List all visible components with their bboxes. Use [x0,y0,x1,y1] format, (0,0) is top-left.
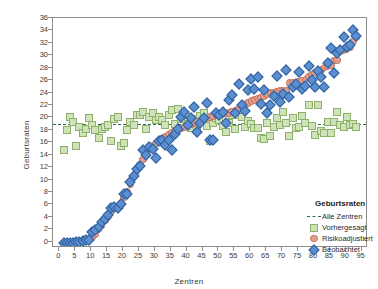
y-tick-label: 32 [26,37,48,46]
x-tick-mark [170,247,171,251]
data-point [285,132,293,140]
legend-item-risikoadjustiert[interactable]: Risikoadjustiert [306,233,378,244]
x-tick-label: 55 [229,251,237,260]
x-tick-label: 45 [197,251,205,260]
y-tick-label: 22 [26,100,48,109]
legend: Geburtsraten Alle ZentrenVorhergesagtRis… [306,199,378,255]
legend-title: Geburtsraten [315,199,378,208]
x-tick-label: 60 [245,251,253,260]
data-point [308,122,316,130]
legend-rows: Alle ZentrenVorhergesagtRisikoadjustiert… [306,211,378,255]
x-tick-label: 30 [150,251,158,260]
data-point [279,108,287,116]
y-tick-label: 10 [26,174,48,183]
y-tick-label: 4 [26,211,48,220]
plot-frame: Geburtsraten Alle ZentrenVorhergesagtRis… [52,17,367,247]
y-tick-label: 18 [26,124,48,133]
data-point [107,137,115,145]
y-tick-label: 34 [26,25,48,34]
x-tick-mark [74,247,75,251]
data-point [233,78,244,89]
y-tick-label: 28 [26,62,48,71]
data-point [281,64,292,75]
data-point [289,114,297,122]
x-tick-mark [106,247,107,251]
x-tick-mark [249,247,250,251]
x-tick-mark [186,247,187,251]
data-point [305,101,313,109]
data-point [95,134,103,142]
data-point [266,132,274,140]
x-tick-mark [233,247,234,251]
x-tick-mark [202,247,203,251]
y-tick-label: 16 [26,137,48,146]
legend-marker-icon [306,216,322,217]
y-tick-label: 12 [26,162,48,171]
data-point [161,121,169,129]
x-tick-label: 70 [277,251,285,260]
data-point [328,67,339,78]
y-tick-label: 14 [26,149,48,158]
x-tick-label: 10 [86,251,94,260]
x-tick-label: 15 [102,251,110,260]
legend-item-alle-zentren[interactable]: Alle Zentren [306,211,378,222]
legend-marker-icon [306,246,322,254]
data-point [333,108,341,116]
y-tick-label: 20 [26,112,48,121]
data-point [60,146,68,154]
y-tick-label: 26 [26,75,48,84]
y-tick-label: 6 [26,199,48,208]
y-axis-tick-labels: 024681012141618202224262830323436 [26,17,48,247]
data-point [142,125,150,133]
data-point [63,126,71,134]
data-point [352,123,360,131]
legend-item-label: Vorhergesagt [322,223,367,232]
data-point [319,82,330,93]
data-point [327,129,335,137]
legend-marker-icon [306,224,322,232]
x-tick-mark [90,247,91,251]
x-tick-mark [138,247,139,251]
data-point [72,142,80,150]
x-tick-mark [58,247,59,251]
data-point [254,124,262,132]
y-tick-label: 2 [26,224,48,233]
y-tick-label: 0 [26,236,48,245]
y-tick-label: 30 [26,50,48,59]
data-point [188,101,199,112]
data-point [114,113,122,121]
legend-item-label: Alle Zentren [322,212,362,221]
x-tick-label: 75 [293,251,301,260]
x-tick-label: 25 [134,251,142,260]
x-tick-label: 40 [181,251,189,260]
x-tick-label: 0 [56,251,60,260]
data-point [130,121,138,129]
data-point [201,97,212,108]
legend-item-vorhergesagt[interactable]: Vorhergesagt [306,222,378,233]
y-tick-label: 24 [26,87,48,96]
y-tick-label: 36 [26,13,48,22]
legend-item-label: Risikoadjustiert [322,234,373,243]
data-point [316,72,327,83]
legend-item-beobachtet[interactable]: Beobachtet [306,244,378,255]
x-tick-mark [265,247,266,251]
x-tick-label: 20 [118,251,126,260]
x-tick-label: 35 [166,251,174,260]
x-tick-mark [154,247,155,251]
x-axis-title: Zentren [0,277,378,286]
x-tick-label: 5 [72,251,76,260]
legend-item-label: Beobachtet [322,245,360,254]
x-tick-mark [281,247,282,251]
data-point [231,125,239,133]
scatter-chart: Geburtsraten Zentren 0246810121416182022… [0,0,378,289]
data-point [271,70,282,81]
x-tick-mark [122,247,123,251]
legend-marker-icon [306,235,322,243]
y-tick-label: 8 [26,187,48,196]
data-point [314,101,322,109]
x-tick-mark [217,247,218,251]
data-point [120,139,128,147]
x-tick-label: 65 [261,251,269,260]
x-tick-mark [297,247,298,251]
x-tick-label: 50 [213,251,221,260]
